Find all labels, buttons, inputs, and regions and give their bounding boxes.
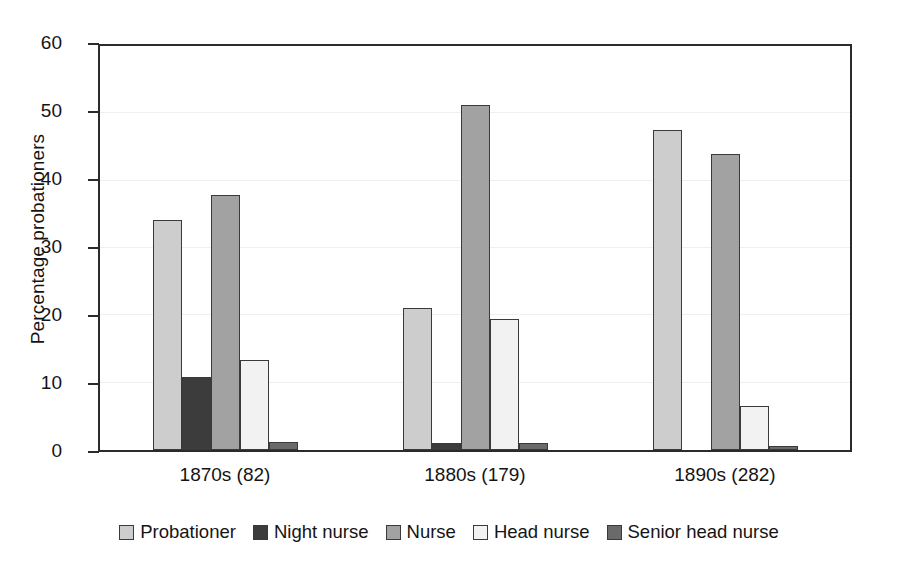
bar: [711, 154, 740, 450]
bar: [769, 446, 798, 450]
legend-swatch-icon: [386, 525, 401, 540]
x-axis-category-label: 1870s (82): [100, 464, 350, 486]
legend-item[interactable]: Night nurse: [253, 521, 369, 543]
legend-item[interactable]: Probationer: [119, 521, 236, 543]
legend-label: Head nurse: [494, 521, 590, 543]
y-axis-tick-label: 30: [18, 237, 62, 256]
legend-item[interactable]: Nurse: [386, 521, 456, 543]
bar: [653, 130, 682, 450]
bar: [211, 195, 240, 450]
chart-legend: ProbationerNight nurseNurseHead nurseSen…: [0, 521, 898, 543]
y-axis-tick: [88, 383, 99, 385]
y-axis-tick: [88, 179, 99, 181]
bar: [490, 319, 519, 450]
bar: [182, 377, 211, 450]
legend-swatch-icon: [473, 525, 488, 540]
y-axis-tick-label: 40: [18, 169, 62, 188]
legend-label: Night nurse: [274, 521, 369, 543]
bar: [432, 443, 461, 450]
bar: [240, 360, 269, 450]
legend-label: Senior head nurse: [628, 521, 779, 543]
bars-layer: [100, 46, 850, 450]
y-axis-tick: [88, 451, 99, 453]
bar: [519, 443, 548, 450]
bar: [403, 308, 432, 450]
y-axis-tick: [88, 247, 99, 249]
legend-item[interactable]: Senior head nurse: [607, 521, 779, 543]
legend-swatch-icon: [607, 525, 622, 540]
y-axis-tick-label: 50: [18, 101, 62, 120]
legend-label: Nurse: [407, 521, 456, 543]
y-axis-tick: [88, 43, 99, 45]
x-axis-category-label: 1890s (282): [600, 464, 850, 486]
legend-swatch-icon: [253, 525, 268, 540]
y-axis-tick-label: 10: [18, 373, 62, 392]
bar: [269, 442, 298, 450]
bar: [461, 105, 490, 450]
y-axis-tick-label: 20: [18, 305, 62, 324]
bar: [740, 406, 769, 450]
y-axis-tick-label: 0: [18, 441, 62, 460]
x-axis-category-label: 1880s (179): [350, 464, 600, 486]
legend-swatch-icon: [119, 525, 134, 540]
legend-label: Probationer: [140, 521, 236, 543]
y-axis-tick: [88, 111, 99, 113]
legend-item[interactable]: Head nurse: [473, 521, 590, 543]
bar-chart: Percentage probationers 0102030405060 18…: [0, 0, 898, 565]
y-axis-tick-label: 60: [18, 33, 62, 52]
y-axis-tick: [88, 315, 99, 317]
bar: [153, 220, 182, 450]
